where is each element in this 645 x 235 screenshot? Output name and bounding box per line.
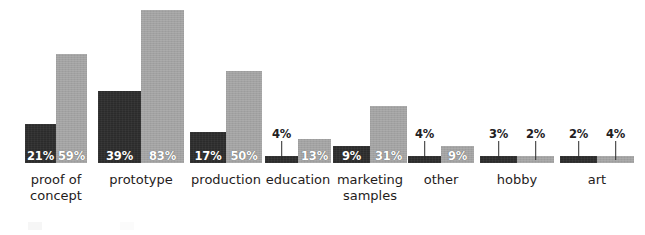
bar-chart: 21%59%39%83%17%50%4%13%9%31%4%9%3%2%2%4%… bbox=[0, 0, 645, 235]
bar-group: 4%9% bbox=[408, 0, 474, 168]
value-leader-line bbox=[615, 141, 617, 160]
category-label-line1: prototype bbox=[109, 172, 172, 187]
bar-light: 83% bbox=[141, 10, 184, 163]
category-label: hobby bbox=[497, 172, 537, 188]
category-label: other bbox=[424, 172, 459, 188]
bar-value-label: 4% bbox=[272, 128, 291, 140]
bar-group: 21%59% bbox=[25, 0, 87, 168]
bar-group: 4%13% bbox=[265, 0, 331, 168]
bar-value-label: 13% bbox=[298, 150, 331, 162]
category-label-line2: concept bbox=[30, 188, 82, 204]
bar-group: 39%83% bbox=[98, 0, 184, 168]
category-label: education bbox=[266, 172, 331, 188]
bar-value-label: 39% bbox=[98, 150, 141, 162]
value-leader-line bbox=[578, 141, 580, 160]
bar-value-label: 9% bbox=[441, 150, 474, 162]
bar-dark: 17% bbox=[190, 132, 226, 163]
bar-value-label: 83% bbox=[141, 150, 184, 162]
category-label: prototype bbox=[109, 172, 172, 188]
bar-value-label: 9% bbox=[333, 150, 370, 162]
bar-value-label: 59% bbox=[56, 150, 87, 162]
bar-value-label: 50% bbox=[226, 150, 262, 162]
bar-value-label: 17% bbox=[190, 150, 226, 162]
bar-group: 3%2% bbox=[480, 0, 554, 168]
legend-swatch-light bbox=[120, 222, 134, 230]
legend-entry bbox=[28, 222, 46, 230]
bar-dark: 21% bbox=[25, 124, 56, 163]
category-label-line1: production bbox=[191, 172, 261, 187]
bar-light: 50% bbox=[226, 71, 262, 163]
category-label: marketingsamples bbox=[337, 172, 403, 203]
bar-group: 17%50% bbox=[190, 0, 262, 168]
bar-value-label: 21% bbox=[25, 150, 56, 162]
category-label: production bbox=[191, 172, 261, 188]
plot-area: 21%59%39%83%17%50%4%13%9%31%4%9%3%2%2%4% bbox=[0, 0, 645, 168]
bar-value-label: 3% bbox=[489, 128, 508, 140]
bar-light: 13% bbox=[298, 139, 331, 163]
category-label-line1: marketing bbox=[337, 172, 403, 187]
bar-dark: 9% bbox=[333, 146, 370, 163]
category-label: proof ofconcept bbox=[30, 172, 82, 203]
bar-light: 9% bbox=[441, 146, 474, 163]
value-leader-line bbox=[498, 141, 500, 160]
category-label-line2: samples bbox=[337, 188, 403, 204]
bar-value-label: 2% bbox=[526, 128, 545, 140]
bar-light: 59% bbox=[56, 54, 87, 163]
bar-dark: 39% bbox=[98, 91, 141, 163]
category-label-line1: art bbox=[588, 172, 606, 187]
category-label-line1: proof of bbox=[31, 172, 81, 187]
category-label-line1: hobby bbox=[497, 172, 537, 187]
category-label-line1: education bbox=[266, 172, 331, 187]
legend-entry bbox=[120, 222, 138, 230]
bar-value-label: 4% bbox=[415, 128, 434, 140]
value-leader-line bbox=[281, 141, 283, 160]
bar-value-label: 4% bbox=[606, 128, 625, 140]
value-leader-line bbox=[424, 141, 426, 160]
category-axis: proof ofconceptprototypeproductioneducat… bbox=[0, 168, 645, 214]
bar-group: 9%31% bbox=[333, 0, 407, 168]
category-label: art bbox=[588, 172, 606, 188]
bar-value-label: 31% bbox=[370, 150, 407, 162]
bar-group: 2%4% bbox=[560, 0, 634, 168]
bar-value-label: 2% bbox=[569, 128, 588, 140]
chart-legend bbox=[0, 222, 645, 235]
value-leader-line bbox=[535, 141, 537, 160]
category-label-line1: other bbox=[424, 172, 459, 187]
bar-light: 31% bbox=[370, 106, 407, 163]
legend-swatch-dark bbox=[28, 222, 42, 230]
